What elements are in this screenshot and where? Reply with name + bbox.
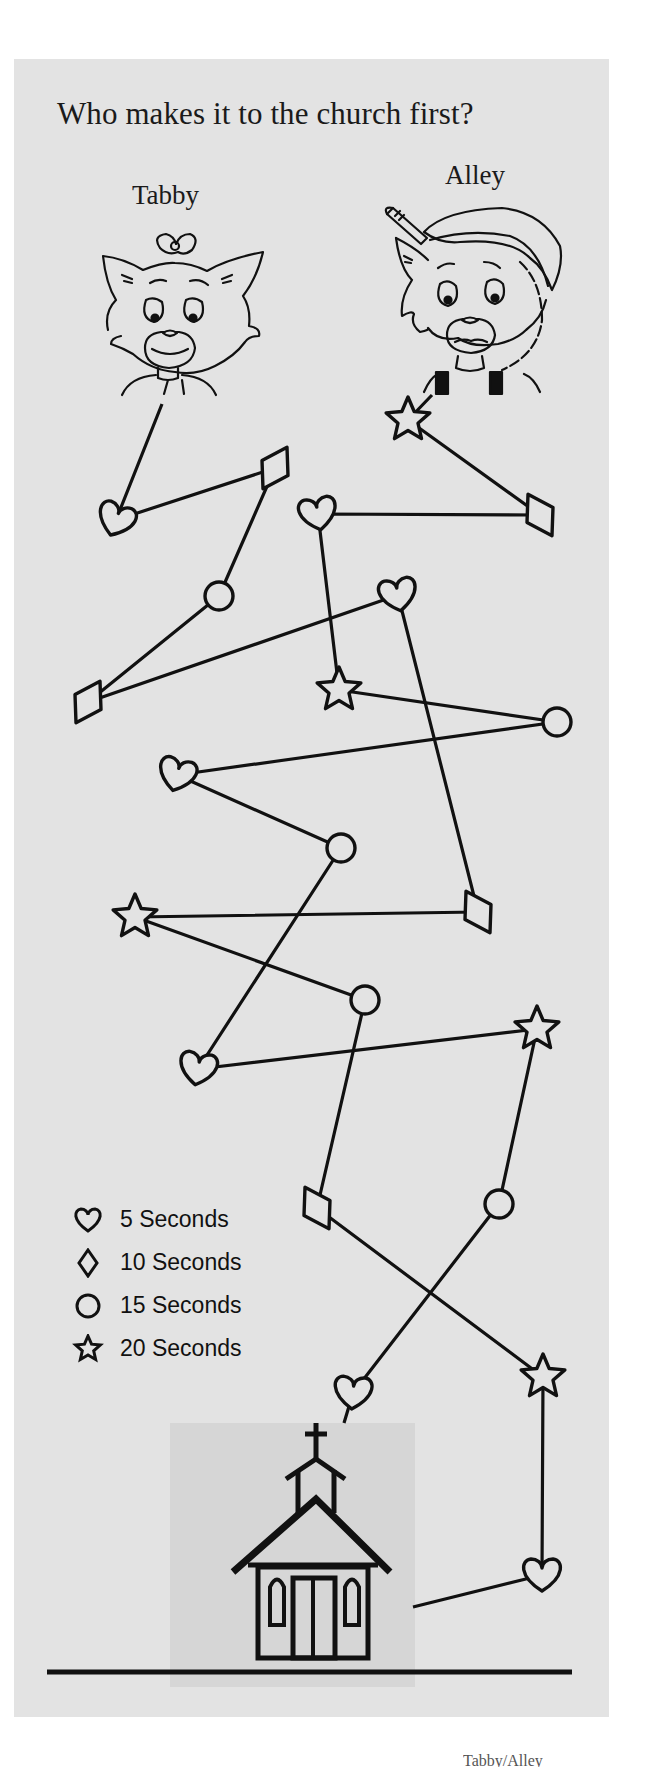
tabby-node-5-heart-icon	[377, 576, 419, 614]
legend-row-10-seconds: 10 Seconds	[70, 1241, 241, 1284]
alley-node-3-heart-icon	[297, 495, 339, 533]
alley-node-8-heart-icon	[177, 1050, 219, 1088]
footer-caption: Tabby/Alley	[463, 1752, 543, 1767]
alley-cat-icon	[386, 208, 561, 394]
legend-label: 15 Seconds	[120, 1292, 241, 1319]
circle-icon	[70, 1291, 106, 1321]
legend-row-15-seconds: 15 Seconds	[70, 1284, 241, 1327]
legend-label: 10 Seconds	[120, 1249, 241, 1276]
church-icon	[233, 1423, 390, 1658]
star-icon	[70, 1334, 106, 1364]
alley-node-6-heart-icon	[155, 755, 199, 795]
tabby-node-9-diamond-icon	[292, 1180, 342, 1237]
tabby-node-4-diamond-icon	[63, 674, 113, 731]
alley-node-11-heart-icon	[333, 1375, 373, 1410]
tabby-node-10-star-icon	[521, 1354, 565, 1396]
tabby-cat-icon	[103, 234, 263, 395]
legend-row-5-seconds: 5 Seconds	[70, 1198, 241, 1241]
tabby-node-3-circle-icon	[205, 582, 233, 610]
legend: 5 Seconds 10 Seconds 15 Seconds 20 Secon…	[70, 1198, 241, 1370]
heart-icon	[70, 1205, 106, 1235]
alley-node-5-circle-icon	[543, 708, 571, 736]
legend-row-20-seconds: 20 Seconds	[70, 1327, 241, 1370]
legend-label: 20 Seconds	[120, 1335, 241, 1362]
alley-node-9-star-icon	[515, 1006, 559, 1048]
tabby-node-8-circle-icon	[351, 986, 379, 1014]
tabby-node-11-heart-icon	[524, 1559, 561, 1591]
maze-board	[0, 0, 653, 1767]
legend-label: 5 Seconds	[120, 1206, 229, 1233]
race-paths	[88, 395, 557, 1607]
alley-node-7-circle-icon	[327, 834, 355, 862]
alley-node-10-circle-icon	[485, 1190, 513, 1218]
tabby-node-7-star-icon	[113, 894, 157, 936]
tabby-node-1-heart-icon	[93, 499, 139, 542]
tabby-node-2-diamond-icon	[250, 440, 300, 497]
diamond-icon	[70, 1248, 106, 1278]
alley-node-4-star-icon	[317, 667, 361, 709]
path-nodes	[63, 397, 571, 1591]
